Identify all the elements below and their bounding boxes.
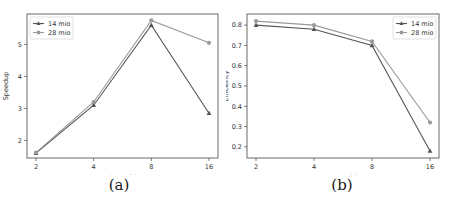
caption-a: (a) [99, 176, 139, 194]
x-tick-label: 2 [34, 163, 38, 171]
speedup-chart: 248162345Number of GPUsSpeedup14 mio28 m… [0, 0, 226, 175]
legend-label: 14 mio [411, 20, 433, 28]
y-tick-label: 0.4 [232, 103, 242, 111]
legend-label: 28 mio [48, 29, 70, 37]
x-tick-label: 8 [149, 163, 153, 171]
efficiency-panel: 248160.20.30.40.50.60.70.8Number of GPUs… [226, 0, 452, 211]
y-tick-label: 2 [18, 137, 22, 145]
circle-marker-icon [400, 31, 404, 35]
x-tick-label: 16 [205, 163, 213, 171]
x-tick-label: 2 [254, 163, 258, 171]
series-line [36, 25, 209, 153]
circle-marker [92, 100, 96, 104]
y-tick-label: 0.6 [232, 62, 242, 70]
circle-marker [149, 18, 153, 22]
y-tick-label: 5 [18, 41, 22, 49]
y-axis-label: Speedup [2, 72, 10, 101]
efficiency-chart: 248160.20.30.40.50.60.70.8Number of GPUs… [226, 0, 452, 175]
circle-marker [370, 39, 374, 43]
caption-b: (b) [322, 176, 362, 194]
series-line [256, 25, 430, 151]
circle-marker [34, 150, 38, 154]
x-tick-label: 16 [426, 163, 434, 171]
circle-marker [207, 41, 211, 45]
series-line [36, 20, 209, 152]
legend: 14 mio28 mio [30, 17, 73, 39]
speedup-panel: 248162345Number of GPUsSpeedup14 mio28 m… [0, 0, 226, 211]
y-tick-label: 0.5 [232, 82, 242, 90]
legend: 14 mio28 mio [393, 17, 436, 39]
x-tick-label: 4 [312, 163, 316, 171]
x-axis-label: Number of GPUs [94, 174, 152, 175]
x-tick-label: 8 [370, 163, 374, 171]
x-axis-label: Number of GPUs [314, 174, 372, 175]
legend-label: 14 mio [48, 20, 70, 28]
y-tick-label: 0.8 [232, 21, 242, 29]
circle-marker [254, 19, 258, 23]
circle-marker [428, 120, 432, 124]
y-axis-label: Efficiency [226, 70, 230, 101]
y-tick-label: 0.7 [232, 42, 242, 50]
y-tick-label: 3 [18, 105, 22, 113]
circle-marker [312, 23, 316, 27]
legend-label: 28 mio [411, 29, 433, 37]
x-tick-label: 4 [92, 163, 96, 171]
circle-marker-icon [37, 31, 41, 35]
y-tick-label: 4 [18, 73, 22, 81]
y-tick-label: 0.3 [232, 123, 242, 131]
y-tick-label: 0.2 [232, 143, 242, 151]
